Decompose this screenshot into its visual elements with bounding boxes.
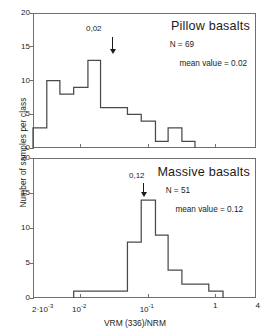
y-tick-label: 5 [26, 110, 30, 118]
chart-panel-pillow-basalts: Pillow basalts N = 69 mean value = 0.02 … [33, 13, 256, 148]
y-tick-label: 15 [21, 189, 30, 197]
y-tick-label: 15 [21, 42, 30, 50]
y-tick-label: 0 [26, 294, 30, 302]
histogram-curve-pillow [33, 13, 256, 148]
x-tick-label: 10-1 [140, 302, 154, 314]
y-tick-label: 0 [26, 144, 30, 152]
histogram-curve-massive [33, 158, 256, 298]
y-tick-label: 10 [21, 224, 30, 232]
x-tick-label: 1 [213, 302, 217, 310]
x-axis-title: VRM (336)/NRM [104, 318, 166, 328]
y-tick-label: 5 [26, 259, 30, 267]
chart-panel-massive-basalts: Massive basalts N = 51 mean value = 0.12… [33, 158, 256, 298]
figure: Number of samples per class Pillow basal… [0, 0, 269, 335]
x-tick-label: 10-2 [72, 302, 86, 314]
y-tick-label: 10 [21, 76, 30, 84]
x-tick-label: 4 [255, 302, 259, 310]
y-tick-label: 20 [21, 154, 30, 162]
x-tick-label: 2·10-3 [32, 302, 53, 314]
y-tick-label: 20 [21, 9, 30, 17]
